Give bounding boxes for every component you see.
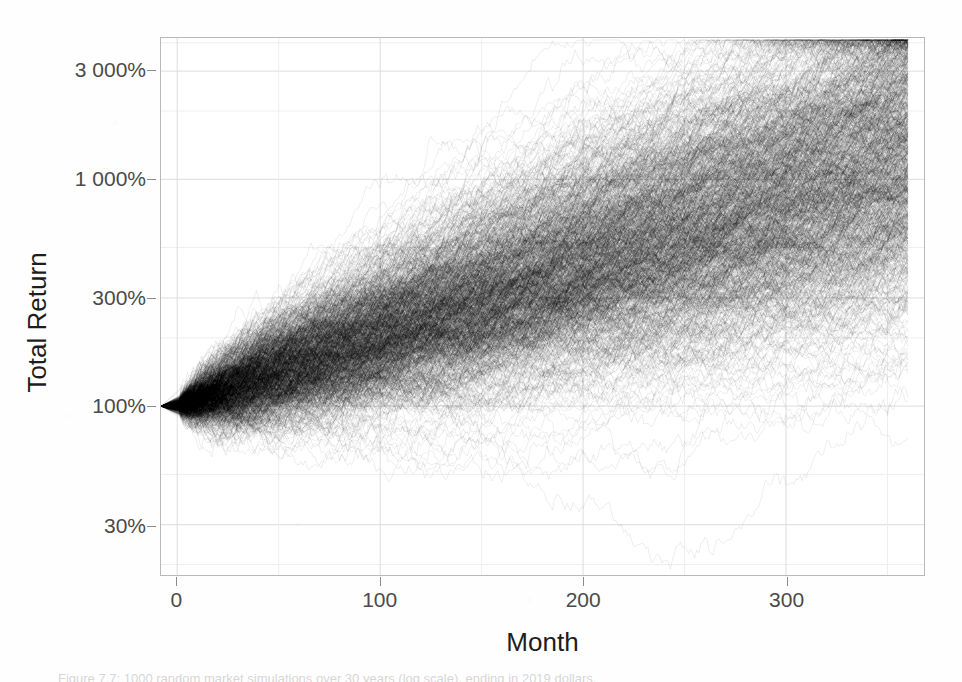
figure-container: 3 000% 1 000% 300% 100% 30% 0 100 200 30…: [0, 0, 962, 682]
y-tick-mark: [147, 298, 156, 299]
y-axis-title: Total Return: [22, 223, 53, 423]
y-tick-mark: [147, 406, 156, 407]
y-tick-label: 300%: [92, 287, 146, 308]
plot-panel: [160, 37, 925, 576]
x-tick-label: 300: [769, 589, 804, 610]
y-tick-label: 1 000%: [75, 168, 146, 189]
figure-caption: Figure 7.7: 1000 random market simulatio…: [58, 671, 918, 682]
x-tick-label: 200: [566, 589, 601, 610]
x-tick-label: 100: [362, 589, 397, 610]
x-tick-label: 0: [170, 589, 182, 610]
x-axis-title: Month: [160, 627, 925, 658]
x-tick-mark: [583, 577, 584, 586]
y-tick-label: 30%: [104, 515, 146, 536]
x-tick-mark: [176, 577, 177, 586]
y-tick-label: 100%: [92, 395, 146, 416]
y-tick-mark: [147, 179, 156, 180]
simulation-paths: [161, 40, 908, 569]
x-tick-mark: [380, 577, 381, 586]
plot-svg: [161, 38, 924, 575]
y-tick-mark: [147, 526, 156, 527]
y-tick-label: 3 000%: [75, 59, 146, 80]
y-tick-mark: [147, 70, 156, 71]
x-tick-mark: [787, 577, 788, 586]
